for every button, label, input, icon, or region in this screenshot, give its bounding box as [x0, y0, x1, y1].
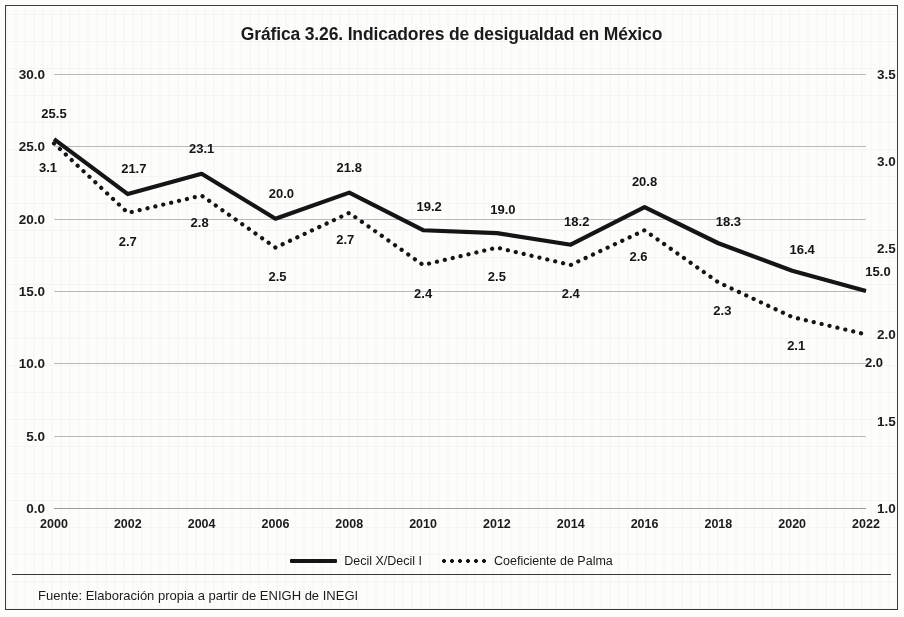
x-axis-tick-label: 2014: [557, 517, 585, 531]
page-title: Gráfica 3.26. Indicadores de desigualdad…: [6, 24, 897, 45]
data-point-label: 2.3: [713, 303, 731, 318]
data-point-label: 18.3: [716, 214, 741, 229]
figure-frame: Gráfica 3.26. Indicadores de desigualdad…: [5, 5, 898, 610]
data-point-label: 21.8: [337, 159, 362, 174]
data-point-label: 2.1: [787, 338, 805, 353]
left-axis-tick-label: 25.0: [19, 139, 45, 154]
data-point-label: 16.4: [790, 241, 815, 256]
left-axis-tick-label: 30.0: [19, 67, 45, 82]
right-axis-tick-label: 3.0: [877, 153, 896, 168]
left-axis-tick-label: 0.0: [26, 501, 45, 516]
series-line: [54, 139, 866, 291]
data-point-label: 2.4: [414, 285, 432, 300]
figure-page: Gráfica 3.26. Indicadores de desigualdad…: [0, 0, 904, 617]
data-point-label: 20.8: [632, 174, 657, 189]
data-point-label: 23.1: [189, 140, 214, 155]
data-point-label: 3.1: [39, 160, 57, 175]
data-point-label: 2.6: [629, 249, 647, 264]
legend-item-label: Decil X/Decil I: [344, 554, 422, 568]
left-axis-tick-label: 5.0: [26, 428, 45, 443]
x-axis-tick-label: 2020: [778, 517, 806, 531]
x-axis-tick-label: 2016: [631, 517, 659, 531]
x-axis-tick-label: 2002: [114, 517, 142, 531]
footer-divider: [12, 574, 891, 575]
gridline: [54, 508, 866, 509]
chart-legend: Decil X/Decil ICoeficiente de Palma: [6, 554, 897, 568]
data-point-label: 19.2: [416, 199, 441, 214]
right-axis-tick-label: 2.0: [877, 327, 896, 342]
data-point-label: 2.8: [191, 214, 209, 229]
data-point-label: 2.7: [336, 231, 354, 246]
x-axis-tick-label: 2004: [188, 517, 216, 531]
right-axis-tick-label: 3.5: [877, 67, 896, 82]
right-axis-tick-label: 1.5: [877, 414, 896, 429]
x-axis-tick-label: 2022: [852, 517, 880, 531]
series-lines: [54, 74, 866, 508]
data-point-label: 2.4: [562, 285, 580, 300]
left-axis-tick-label: 20.0: [19, 211, 45, 226]
x-axis-tick-label: 2010: [409, 517, 437, 531]
data-point-label: 2.7: [119, 233, 137, 248]
legend-item-label: Coeficiente de Palma: [494, 554, 613, 568]
legend-item[interactable]: Decil X/Decil I: [290, 554, 422, 568]
data-point-label: 21.7: [121, 161, 146, 176]
x-axis-tick-label: 2000: [40, 517, 68, 531]
data-point-label: 2.5: [268, 268, 286, 283]
series-line: [54, 143, 866, 334]
data-point-label: 2.0: [865, 355, 883, 370]
dotted-line-icon: [440, 559, 487, 563]
data-point-label: 2.5: [488, 268, 506, 283]
x-axis-tick-label: 2012: [483, 517, 511, 531]
left-axis-tick-label: 10.0: [19, 356, 45, 371]
data-point-label: 18.2: [564, 213, 589, 228]
solid-line-icon: [290, 559, 337, 563]
source-note: Fuente: Elaboración propia a partir de E…: [38, 588, 358, 603]
x-axis-tick-label: 2008: [335, 517, 363, 531]
x-axis-tick-label: 2006: [262, 517, 290, 531]
data-point-label: 15.0: [865, 264, 890, 279]
left-axis-tick-label: 15.0: [19, 284, 45, 299]
data-point-label: 19.0: [490, 202, 515, 217]
right-axis-tick-label: 2.5: [877, 240, 896, 255]
legend-item[interactable]: Coeficiente de Palma: [440, 554, 613, 568]
data-point-label: 25.5: [41, 106, 66, 121]
plot-area: 0.05.010.015.020.025.030.0 1.01.52.02.53…: [54, 74, 866, 508]
right-axis-tick-label: 1.0: [877, 501, 896, 516]
x-axis-tick-label: 2018: [704, 517, 732, 531]
data-point-label: 20.0: [269, 185, 294, 200]
